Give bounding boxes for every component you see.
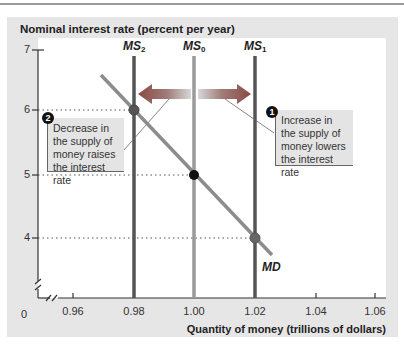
point-ms2-equilibrium xyxy=(129,105,139,115)
md-line xyxy=(101,75,272,255)
axes xyxy=(32,50,386,301)
ms2-label: MS2 xyxy=(123,39,145,54)
y-axis-title: Nominal interest rate (percent per year) xyxy=(20,23,235,35)
callout-decrease-supply: Decrease in the supply of money raises t… xyxy=(47,118,124,172)
x-tick-1-02: 1.02 xyxy=(235,305,275,317)
x-tick-1-06: 1.06 xyxy=(355,305,395,317)
right-shift-arrow xyxy=(198,84,251,104)
x-axis-title: Quantity of money (trillions of dollars) xyxy=(187,323,386,335)
ms0-label: MS0 xyxy=(183,39,205,54)
x-tick-1-04: 1.04 xyxy=(296,305,336,317)
y-tick-5: 5 xyxy=(16,168,30,180)
y-tick-4: 4 xyxy=(16,231,30,243)
x-tick-1-00: 1.00 xyxy=(174,305,214,317)
badge-1: 1 xyxy=(266,106,278,118)
origin-label: 0 xyxy=(21,308,27,320)
callout-increase-supply: Increase in the supply of money lowers t… xyxy=(275,110,353,166)
x-tick-0-98: 0.98 xyxy=(114,305,154,317)
point-ms1-equilibrium xyxy=(250,233,260,243)
badge-2: 2 xyxy=(42,112,54,124)
left-shift-arrow xyxy=(138,84,191,104)
ms1-label: MS1 xyxy=(244,39,266,54)
point-ms0-equilibrium xyxy=(189,170,199,180)
y-tick-7: 7 xyxy=(16,43,30,55)
md-label: MD xyxy=(262,260,281,274)
x-tick-0-96: 0.96 xyxy=(53,305,93,317)
y-tick-6: 6 xyxy=(16,103,30,115)
